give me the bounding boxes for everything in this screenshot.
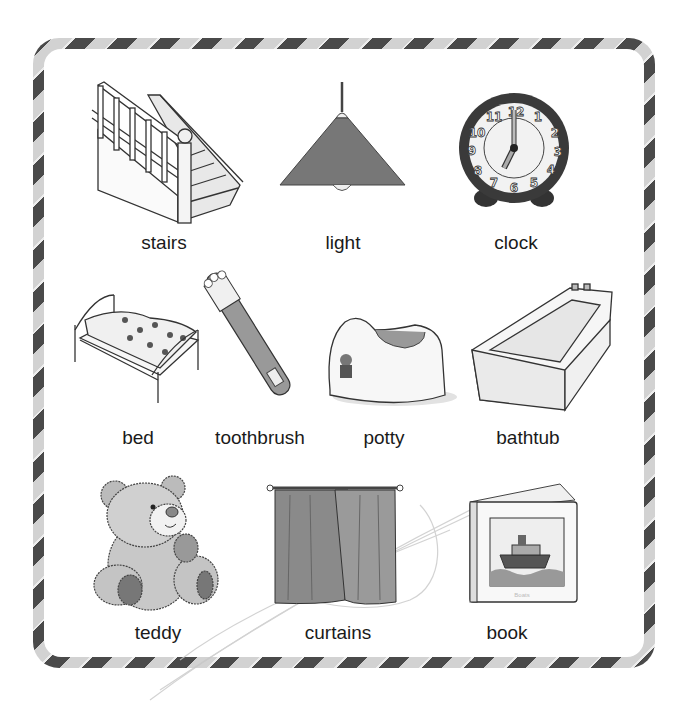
picture-book-icon: Boats [0, 0, 696, 707]
label-book: book [486, 622, 527, 644]
book-cover-text: Boats [514, 592, 529, 598]
